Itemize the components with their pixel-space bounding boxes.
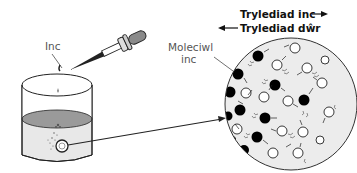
water-diffusion-label: Trylediad dŵr: [240, 22, 321, 34]
dropper-bulb: [127, 29, 148, 46]
ink-molecule-label-line1: Moleciwl: [168, 41, 213, 53]
magnify-source-circle: [56, 140, 68, 152]
diffusion-legend: Tryledіad inc Trylediad dŵr: [218, 8, 328, 34]
dropper: [66, 26, 149, 76]
ink-molecule-label-line2: inc: [181, 53, 197, 65]
magnified-view: [224, 38, 357, 170]
beaker: [22, 74, 92, 162]
ink-label: Inc: [45, 40, 61, 52]
ink-diffusion-label: Tryledіad inc: [240, 8, 315, 20]
diffusion-diagram: Inc Moleciwl inc Tryledіad inc Trylediad…: [0, 0, 357, 173]
